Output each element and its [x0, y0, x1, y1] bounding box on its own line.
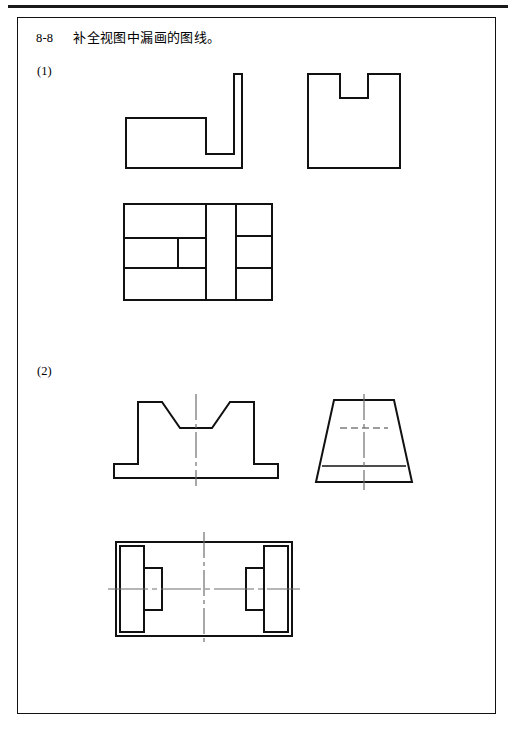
fig1-outline	[126, 74, 242, 168]
figure-top-view-grid	[118, 196, 278, 308]
figure-bottom-view	[106, 528, 302, 648]
exercise-title: 8-8 补全视图中漏画的图线。	[36, 27, 221, 46]
fig2-outline	[308, 74, 400, 168]
page-top-rule	[8, 5, 508, 8]
exercise-page: 8-8 补全视图中漏画的图线。 (1) (2)	[0, 0, 516, 734]
figure-symmetric-front-view	[106, 390, 296, 494]
section-label-2: (2)	[37, 364, 52, 379]
exercise-title-text: 补全视图中漏画的图线。	[73, 27, 220, 46]
section-label-1: (1)	[37, 64, 52, 79]
exercise-number: 8-8	[36, 31, 53, 46]
fig3-outline	[124, 204, 272, 300]
figure-l-step-front-view	[118, 66, 250, 176]
figure-trapezoid-side-view	[300, 390, 424, 494]
figure-u-notch-view	[300, 66, 412, 176]
